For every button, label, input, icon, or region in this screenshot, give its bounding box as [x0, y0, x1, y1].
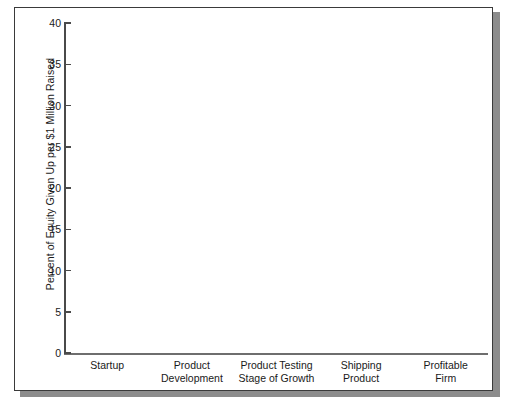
- category-label-line: Profitable: [386, 359, 506, 372]
- x-axis-category-label: ProfitableFirm: [386, 359, 506, 385]
- y-axis-tick-label: 20: [21, 182, 61, 194]
- y-axis-tick-label: 25: [21, 141, 61, 153]
- y-axis-tick: [64, 229, 71, 231]
- y-axis-tick: [64, 187, 71, 189]
- plot-area: Percent of Equity Given Up per $1 Millio…: [15, 8, 494, 392]
- x-axis-line: [64, 353, 488, 355]
- y-axis-tick: [64, 105, 71, 107]
- y-axis-tick-label: 40: [21, 17, 61, 29]
- y-axis-tick: [64, 22, 71, 24]
- y-axis-tick: [64, 270, 71, 272]
- y-axis-tick: [64, 352, 71, 354]
- y-axis-tick: [64, 64, 71, 66]
- chart-screenshot: Percent of Equity Given Up per $1 Millio…: [0, 0, 511, 406]
- y-axis-tick-label: 35: [21, 58, 61, 70]
- category-label-line: Firm: [386, 372, 506, 385]
- y-axis-tick-label: 10: [21, 265, 61, 277]
- y-axis-tick-label: 5: [21, 306, 61, 318]
- chart-frame: Percent of Equity Given Up per $1 Millio…: [14, 7, 493, 391]
- y-axis-tick: [64, 146, 71, 148]
- y-axis-tick-label: 15: [21, 223, 61, 235]
- y-axis-tick-label: 30: [21, 100, 61, 112]
- y-axis-tick-label: 0: [21, 347, 61, 359]
- y-axis-tick: [64, 311, 71, 313]
